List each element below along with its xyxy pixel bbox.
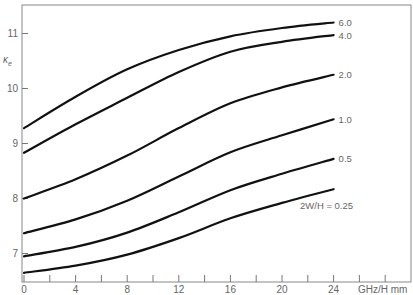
x-tick-label: 4: [73, 284, 79, 295]
curve-1.0: [24, 119, 334, 233]
curve-label-2.0: 2.0: [339, 69, 352, 80]
x-axis-ticks: 04812162024: [21, 275, 385, 295]
curve-label-4.0: 4.0: [339, 30, 352, 41]
x-tick-label: 8: [124, 284, 130, 295]
curve-labels: 6.04.02.01.00.52W/H = 0.25: [300, 17, 353, 211]
y-tick-label: 7: [12, 248, 18, 259]
x-tick-label: 24: [328, 284, 340, 295]
y-tick-label: 10: [7, 83, 19, 94]
plot-frame: [22, 5, 411, 282]
x-tick-label: 20: [276, 284, 288, 295]
curve-0.5: [24, 159, 334, 256]
curve-label-0.25: 2W/H = 0.25: [300, 200, 353, 211]
curve-0.25: [24, 189, 334, 273]
x-tick-label: 0: [21, 284, 27, 295]
curve-4.0: [24, 35, 334, 153]
curves: [24, 23, 334, 273]
curve-2.0: [24, 75, 334, 199]
curve-label-0.5: 0.5: [339, 153, 352, 164]
x-axis-label: GHz/H mm: [358, 284, 407, 295]
y-axis-label: κe: [3, 54, 12, 67]
curve-label-6.0: 6.0: [339, 17, 352, 28]
x-tick-label: 12: [173, 284, 185, 295]
curve-label-1.0: 1.0: [339, 114, 352, 125]
chart-canvas: 7891011 04812162024 6.04.02.01.00.52W/H …: [0, 0, 413, 295]
y-tick-label: 8: [12, 193, 18, 204]
curve-6.0: [24, 23, 334, 129]
y-tick-label: 9: [12, 138, 18, 149]
y-tick-label: 11: [8, 28, 19, 39]
x-tick-label: 16: [225, 284, 237, 295]
